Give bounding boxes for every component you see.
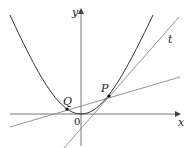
secant-line: [10, 77, 180, 127]
point-p-label: P: [100, 82, 109, 95]
parabola-tangent-secant-diagram: y x 0 P Q t: [0, 0, 186, 148]
parabola-curve: [10, 15, 153, 114]
y-axis-label: y: [71, 6, 79, 19]
point-q-label: Q: [63, 95, 72, 108]
tangent-label-t: t: [168, 33, 173, 46]
x-axis-label: x: [178, 116, 185, 129]
origin-label: 0: [74, 116, 80, 127]
